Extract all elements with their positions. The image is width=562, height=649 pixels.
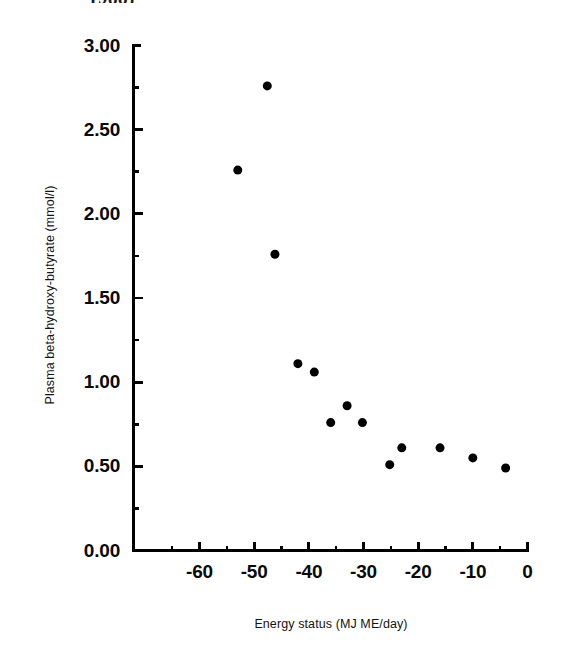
data-point: [343, 401, 352, 410]
data-point: [310, 368, 319, 377]
data-point: [263, 81, 272, 90]
data-point: [326, 418, 335, 427]
data-point: [358, 418, 367, 427]
data-point: [436, 443, 445, 452]
data-points: [233, 81, 510, 472]
data-point: [397, 443, 406, 452]
data-point: [270, 250, 279, 259]
data-point: [501, 464, 510, 473]
data-point: [293, 359, 302, 368]
tick-marks: [134, 88, 501, 551]
scatter-chart-figure: 1988) Plasma beta-hydroxy-butyrate (mmol…: [0, 0, 562, 649]
data-point: [233, 166, 242, 175]
plot-area: [0, 0, 562, 649]
data-point: [385, 460, 394, 469]
data-point: [468, 453, 477, 462]
axes-lines: [132, 44, 529, 551]
